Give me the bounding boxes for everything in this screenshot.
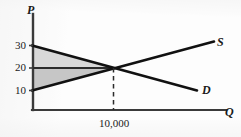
supply-curve-label: S	[217, 36, 224, 48]
y-tick-label-20: 20	[9, 62, 26, 73]
x-tick-label-10000: 10,000	[86, 118, 142, 129]
demand-curve-label: D	[202, 84, 211, 96]
y-tick-label-10: 10	[9, 85, 26, 96]
x-axis-label: Q	[225, 106, 234, 118]
y-axis-label: P	[27, 4, 34, 16]
y-tick-label-30: 30	[9, 40, 26, 51]
supply-demand-chart: P Q 30 20 10 10,000 S D	[0, 0, 241, 137]
